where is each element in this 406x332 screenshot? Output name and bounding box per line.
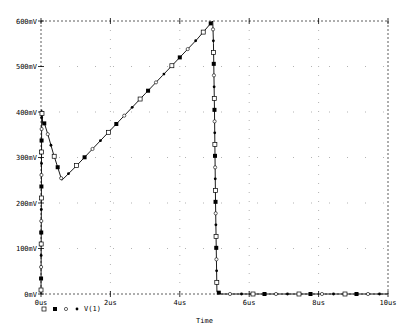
legend: V(1) bbox=[42, 305, 101, 313]
y-tick-label: 500mV bbox=[16, 63, 38, 71]
x-tick-label: 6us bbox=[243, 299, 256, 307]
waveform-chart: 0mV100mV200mV300mV400mV500mV600mV 0us2us… bbox=[0, 0, 406, 332]
trace-markers bbox=[39, 21, 381, 296]
y-tick-label: 200mV bbox=[16, 200, 38, 208]
y-tick-label: 300mV bbox=[16, 154, 38, 162]
x-axis-title: Time bbox=[196, 317, 213, 325]
y-tick-label: 400mV bbox=[16, 109, 38, 117]
legend-label: V(1) bbox=[84, 305, 101, 313]
x-axis-ticks: 0us2us4us6us8us10us bbox=[35, 18, 397, 307]
legend-marker-icons bbox=[42, 307, 78, 311]
y-tick-label: 0mV bbox=[24, 291, 37, 299]
x-tick-label: 0us bbox=[35, 299, 48, 307]
y-tick-label: 100mV bbox=[16, 245, 38, 253]
x-tick-label: 8us bbox=[312, 299, 325, 307]
y-axis-ticks: 0mV100mV200mV300mV400mV500mV600mV bbox=[16, 18, 44, 299]
x-tick-label: 2us bbox=[104, 299, 117, 307]
y-tick-label: 600mV bbox=[16, 18, 38, 26]
x-tick-label: 4us bbox=[173, 299, 186, 307]
x-tick-label: 10us bbox=[380, 299, 397, 307]
